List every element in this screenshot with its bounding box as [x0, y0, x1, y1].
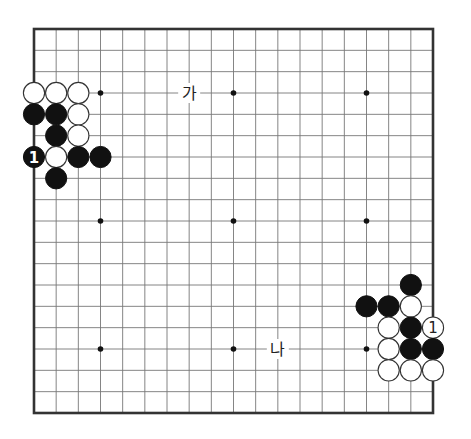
black-stone [23, 104, 44, 125]
stone-disc [68, 125, 89, 146]
stone-disc [400, 274, 421, 295]
stone-disc [378, 296, 399, 317]
white-stone [400, 296, 421, 317]
black-stone [422, 338, 443, 359]
stone-disc [400, 360, 421, 381]
stone-disc [68, 104, 89, 125]
black-stone [90, 146, 111, 167]
white-stone: 1 [422, 317, 443, 338]
star-point [364, 90, 370, 96]
stone-disc [400, 317, 421, 338]
black-stone [400, 274, 421, 295]
stone-disc [378, 338, 399, 359]
stone-disc [68, 146, 89, 167]
white-stone [46, 82, 67, 103]
stone-disc [422, 360, 443, 381]
white-stone [68, 82, 89, 103]
stone-disc [400, 338, 421, 359]
star-point [231, 218, 237, 224]
star-point [98, 218, 104, 224]
stone-disc [68, 82, 89, 103]
stone-disc [46, 104, 67, 125]
white-stone [68, 104, 89, 125]
white-stone [422, 360, 443, 381]
white-stone [378, 338, 399, 359]
position-marker-label: 나 [270, 340, 285, 359]
star-point [231, 90, 237, 96]
stone-disc [46, 168, 67, 189]
stone-disc [90, 146, 111, 167]
stone-disc [422, 338, 443, 359]
black-stone [46, 104, 67, 125]
star-point [364, 218, 370, 224]
stone-disc [23, 104, 44, 125]
stone-disc [46, 146, 67, 167]
star-point [98, 90, 104, 96]
white-stone [68, 125, 89, 146]
star-point [231, 346, 237, 352]
white-stone [23, 82, 44, 103]
stone-disc [400, 296, 421, 317]
black-stone: 1 [23, 146, 44, 167]
black-stone [378, 296, 399, 317]
white-stone [400, 360, 421, 381]
stone-disc [46, 125, 67, 146]
stone-disc [23, 82, 44, 103]
stone-disc [378, 360, 399, 381]
white-stone [378, 360, 399, 381]
white-stone [378, 317, 399, 338]
black-stone [68, 146, 89, 167]
black-stone [46, 125, 67, 146]
white-stone [46, 146, 67, 167]
star-point [364, 346, 370, 352]
black-stone [356, 296, 377, 317]
stone-disc [378, 317, 399, 338]
black-stone [400, 338, 421, 359]
move-number-label: 1 [29, 149, 39, 167]
go-board: 가나 11 [0, 0, 471, 439]
star-point [98, 346, 104, 352]
black-stone [46, 168, 67, 189]
stone-disc [356, 296, 377, 317]
position-marker-label: 가 [182, 84, 197, 103]
black-stone [400, 317, 421, 338]
stone-disc [46, 82, 67, 103]
move-number-label: 1 [428, 319, 438, 337]
